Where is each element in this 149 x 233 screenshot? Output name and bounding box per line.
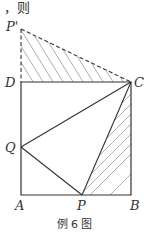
label-b: B [130,199,140,212]
label-p-prime: P' [6,20,18,33]
dashed-line-pprime-c [21,29,131,82]
label-p: P [77,199,86,212]
label-d: D [5,76,15,89]
label-a: A [15,199,24,212]
segment-qc [21,82,131,147]
segment-qp [21,147,82,195]
label-c: C [134,76,144,89]
label-q: Q [5,141,16,154]
geometry-figure: ，则 [0,0,149,233]
square-abcd [21,82,131,195]
figure-caption: 例 6 图 [0,215,149,231]
